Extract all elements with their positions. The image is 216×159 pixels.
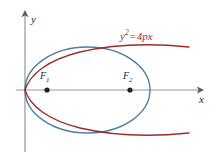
focus-label-f1: F1 [40,71,50,84]
focus-label-f2-subscript: 2 [129,76,133,84]
equation-operator: = [129,30,137,42]
equation-right-side: 4px [137,30,153,42]
parabola-equation-label: y2=4px [120,29,153,42]
conic-figure: y x F1 F2 y2=4px [0,0,216,159]
focus-label-f2: F2 [123,71,133,84]
focus-point-f2 [127,87,132,92]
x-axis-label: x [199,94,204,105]
y-axis-label: y [31,14,36,25]
parabola-lower-branch [25,90,189,135]
focus-point-f1 [44,87,49,92]
focus-label-f1-subscript: 1 [46,76,50,84]
